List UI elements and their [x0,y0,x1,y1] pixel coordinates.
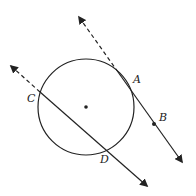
label-b: B [158,111,167,124]
secant-line-dashed [11,66,40,92]
secant-line-solid [40,92,147,186]
tangent-line-dashed [79,17,118,72]
tangent-line-solid [118,72,182,162]
circle-center-point [84,105,88,109]
label-c: C [27,92,36,105]
geometry-diagram: A B C D [0,0,196,196]
label-d: D [99,153,109,166]
label-a: A [132,73,141,86]
point-b-marker [152,122,156,126]
